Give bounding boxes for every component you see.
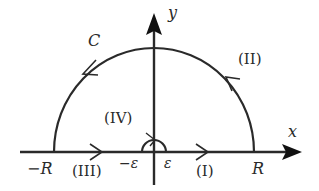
- segment-ii-label: (II): [238, 52, 262, 67]
- x-axis-label: x: [288, 124, 297, 140]
- tick-label-neg-r: −R: [27, 161, 52, 177]
- tick-label-neg-eps: −ε: [119, 156, 138, 170]
- y-axis-label: y: [168, 5, 177, 21]
- contour-diagram: C y x (II) (IV) (III) (I) −R −ε ε R: [0, 0, 319, 191]
- tick-label-eps: ε: [164, 156, 172, 170]
- tick-label-r: R: [252, 161, 264, 177]
- contour-label-c: C: [88, 33, 100, 49]
- segment-iv-label: (IV): [104, 111, 132, 126]
- segment-i-label: (I): [196, 164, 214, 179]
- segment-iii-label: (III): [72, 164, 101, 179]
